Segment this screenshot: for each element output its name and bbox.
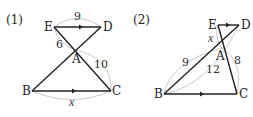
figure-1: (1) E D A B C 9 6 10 x bbox=[6, 10, 121, 109]
point-E: E bbox=[208, 18, 217, 32]
geometry-diagram: (1) E D A B C 9 6 10 x (2) bbox=[0, 0, 253, 117]
measure-BC: x bbox=[68, 95, 75, 109]
point-C: C bbox=[112, 84, 121, 98]
measure-BA: 9 bbox=[182, 56, 189, 69]
measure-ED: 9 bbox=[74, 10, 81, 23]
measure-AC: 10 bbox=[94, 58, 108, 71]
figure-2-label: (2) bbox=[133, 13, 150, 27]
point-C: C bbox=[239, 87, 248, 101]
measure-BD: 12 bbox=[206, 63, 220, 76]
point-E: E bbox=[44, 20, 53, 34]
point-D: D bbox=[241, 18, 251, 32]
figure-1-label: (1) bbox=[6, 13, 23, 27]
parallel-arrow-icon bbox=[79, 25, 83, 30]
measure-EA: 6 bbox=[56, 38, 63, 51]
point-D: D bbox=[103, 20, 113, 34]
parallel-arrow-icon bbox=[226, 23, 230, 28]
measure-AC: 8 bbox=[234, 54, 241, 67]
parallel-arrow-icon bbox=[200, 92, 204, 97]
point-B: B bbox=[154, 87, 163, 101]
parallel-arrow-icon bbox=[72, 89, 76, 94]
point-A: A bbox=[215, 49, 225, 63]
point-A: A bbox=[71, 52, 81, 66]
point-B: B bbox=[22, 84, 31, 98]
segment-DB bbox=[32, 27, 101, 91]
measure-EA: x bbox=[207, 31, 214, 45]
figure-2: (2) E D A B C x 9 12 8 bbox=[133, 13, 251, 101]
